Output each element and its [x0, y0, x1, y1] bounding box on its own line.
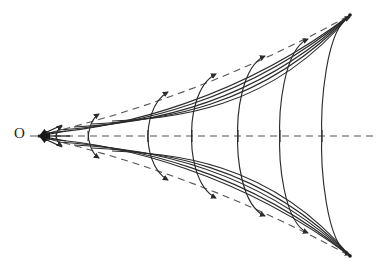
fan-curve-top-4	[92, 15, 350, 124]
fan-curve-bottom-2	[58, 142, 350, 256]
fan-curve-bottom-3	[74, 145, 350, 256]
fan-curve-top-5	[112, 15, 350, 121]
vertical-arrow-curve-bottom-7	[322, 130, 350, 255]
vertex-dot-top-right	[348, 13, 352, 17]
vertex-dot-bottom-right	[348, 254, 352, 258]
vertical-arrow-curve-bottom-5	[238, 130, 265, 216]
figure-container: O	[0, 0, 381, 273]
envelope-boundaries	[40, 15, 350, 256]
lower-envelope-dashed	[40, 137, 350, 256]
vertex-dot-apex	[37, 134, 40, 137]
vertical-arrow-curve-bottom-6	[280, 130, 308, 233]
cusp-envelope-diagram	[0, 0, 381, 273]
fan-curve-top-3	[74, 15, 350, 127]
vertical-arrow-curve-top-6	[280, 39, 308, 142]
fan-curve-bottom-4	[92, 148, 350, 256]
fan-curve-bottom-5	[112, 151, 350, 256]
origin-label: O	[14, 126, 25, 141]
fan-curve-top-2	[58, 15, 350, 130]
fan-curve-top-1	[46, 15, 350, 133]
vertical-arrow-curve-top-4	[192, 74, 216, 142]
vertical-arrow-curve-bottom-4	[192, 130, 216, 198]
fan-curves-bottom	[46, 139, 350, 256]
upper-envelope-dashed	[40, 15, 350, 135]
fan-curve-bottom-1	[46, 139, 350, 256]
fan-curves-top	[46, 15, 350, 133]
vertical-arrow-curve-top-5	[238, 56, 265, 142]
